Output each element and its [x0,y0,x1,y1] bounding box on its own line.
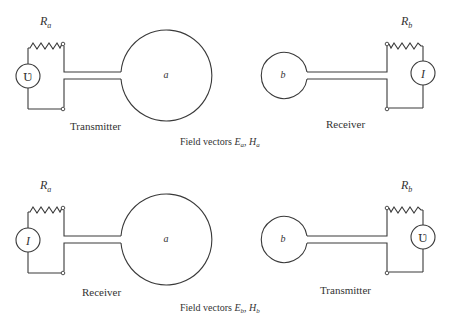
antenna-label: b [281,69,286,80]
resistor-icon [389,207,423,213]
role-label: Transmitter [70,120,121,132]
role-label: Transmitter [320,284,371,296]
panel-top: Ra Ʋ Transmitter a b Rb [16,14,435,149]
terminal-icon [385,271,389,275]
right-circuit: Rb I Receiver [307,14,435,130]
resistor-icon [389,43,423,49]
source-symbol: I [25,234,31,248]
antenna-label: b [281,233,286,244]
resistor-label: Ra [39,178,51,194]
terminal-icon [385,107,389,111]
role-label: Receiver [326,118,365,130]
role-label: Receiver [82,286,121,298]
left-circuit: Ra Ʋ Transmitter [16,14,121,132]
source-symbol: Ʋ [418,230,427,245]
terminal-icon [61,271,65,275]
resistor-icon [28,43,62,49]
caption: Field vectors Eb, Hb [180,302,260,315]
antenna-label: a [164,69,169,80]
left-circuit: Ra I Receiver [16,178,121,298]
right-circuit: Rb Ʋ Transmitter [307,178,435,296]
terminal-icon [385,42,389,46]
panel-bottom: Ra I Receiver a b Rb Ʋ [16,178,435,315]
resistor-label: Ra [39,14,51,30]
terminal-icon [61,107,65,111]
terminal-icon [61,42,65,46]
terminal-icon [61,206,65,210]
resistor-label: Rb [400,14,412,30]
antenna-label: a [164,233,169,244]
terminal-icon [385,206,389,210]
reciprocity-diagram: Ra Ʋ Transmitter a b Rb [0,0,454,317]
source-symbol: Ʋ [23,69,32,84]
resistor-label: Rb [400,178,412,194]
source-symbol: I [420,67,426,81]
caption: Field vectors Ea, Ha [180,136,260,149]
resistor-icon [28,207,62,213]
